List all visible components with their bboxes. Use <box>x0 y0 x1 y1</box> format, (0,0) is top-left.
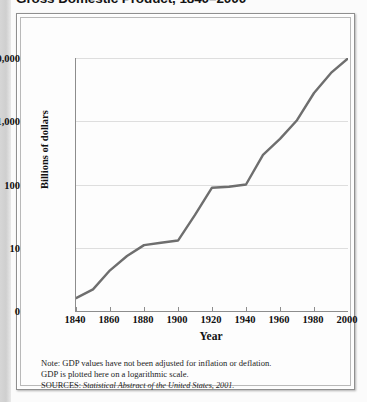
y-axis-title: Billions of dollars <box>39 110 50 189</box>
x-axis-title: Year <box>75 330 347 342</box>
source-prefix: SOURCES: <box>41 381 81 390</box>
gridlines-group <box>76 59 348 312</box>
note-line-2: GDP is plotted here on a logarithmic sca… <box>41 369 351 380</box>
y-tick-label: 1,000 <box>0 116 20 127</box>
page-title: Gross Domestic Product, 1840–2000 <box>16 0 346 6</box>
y-tick-label: 100 <box>0 179 20 190</box>
y-tick-label: 0 <box>0 306 20 317</box>
gdp-line-chart <box>76 58 348 311</box>
figure-frame: Billions of dollars 10,0001,000100100 18… <box>16 13 355 390</box>
x-tickmarks-group <box>77 307 349 311</box>
y-tick-label: 10,000 <box>0 53 20 64</box>
note-source: SOURCES: Statistical Abstract of the Uni… <box>41 380 351 391</box>
x-tick-label: 2000 <box>324 314 367 325</box>
note-line-1: Note: GDP values have not been adjusted … <box>41 358 351 369</box>
figure-notes: Note: GDP values have not been adjusted … <box>41 358 351 392</box>
y-tick-label: 10 <box>0 242 20 253</box>
source-text: Statistical Abstract of the United State… <box>83 381 234 390</box>
gdp-data-line <box>76 58 348 298</box>
plot-area <box>75 58 348 312</box>
